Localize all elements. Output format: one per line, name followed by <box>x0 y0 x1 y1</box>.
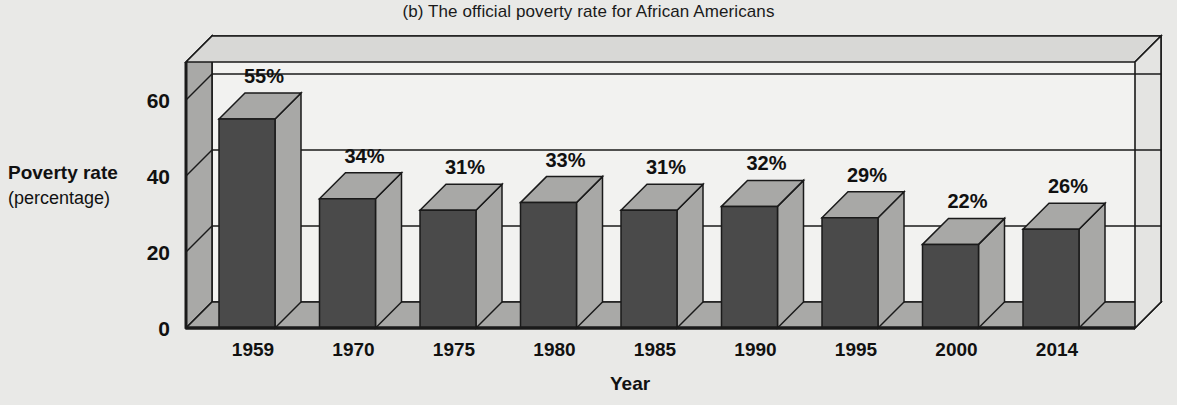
y-axis-ticks: 0204060 <box>147 89 170 340</box>
bar-1975 <box>420 184 502 328</box>
bar-front-face <box>822 218 878 328</box>
chart-plot-area: 0204060 19591970197519801985199019952000… <box>0 0 1177 405</box>
bar-1985 <box>621 184 703 328</box>
bar-value-label: 22% <box>947 190 987 212</box>
x-tick-label: 1990 <box>734 339 776 360</box>
bar-value-label: 29% <box>847 164 887 186</box>
plot-right-wall <box>1135 36 1161 328</box>
x-tick-label: 1995 <box>835 339 878 360</box>
y-tick-label: 20 <box>147 241 170 264</box>
x-axis-ticks: 195919701975198019851990199520002014 <box>232 339 1079 360</box>
bar-value-label: 33% <box>545 149 585 171</box>
bar-value-label: 34% <box>344 145 384 167</box>
poverty-rate-bar-chart: (b) The official poverty rate for Africa… <box>0 0 1177 405</box>
bar-value-label: 31% <box>445 156 485 178</box>
bar-front-face <box>219 119 275 328</box>
y-tick-label: 0 <box>158 317 170 340</box>
bar-side-face <box>275 93 301 328</box>
plot-left-wall <box>186 36 212 328</box>
bar-front-face <box>621 210 677 328</box>
bar-value-label: 32% <box>746 152 786 174</box>
bar-value-label: 26% <box>1048 175 1088 197</box>
bar-1980 <box>521 177 603 328</box>
x-tick-label: 1975 <box>433 339 476 360</box>
bar-value-label: 31% <box>646 156 686 178</box>
y-tick-label: 60 <box>147 89 170 112</box>
x-tick-label: 1970 <box>332 339 374 360</box>
bar-1970 <box>320 173 402 328</box>
bar-front-face <box>923 244 979 328</box>
x-tick-label: 1959 <box>232 339 274 360</box>
bar-front-face <box>722 206 778 328</box>
bar-2014 <box>1023 203 1105 328</box>
bar-2000 <box>923 218 1005 328</box>
x-tick-label: 2014 <box>1036 339 1079 360</box>
x-tick-label: 2000 <box>935 339 977 360</box>
bar-1990 <box>722 180 804 328</box>
bar-1959 <box>219 93 301 328</box>
bar-front-face <box>521 203 577 328</box>
x-tick-label: 1985 <box>634 339 677 360</box>
bar-front-face <box>420 210 476 328</box>
bar-side-face <box>376 173 402 328</box>
plot-ceiling <box>186 36 1161 62</box>
bar-value-label: 55% <box>244 65 284 87</box>
y-tick-label: 40 <box>147 165 170 188</box>
x-tick-label: 1980 <box>533 339 575 360</box>
bar-front-face <box>320 199 376 328</box>
bar-front-face <box>1023 229 1079 328</box>
bar-1995 <box>822 192 904 328</box>
